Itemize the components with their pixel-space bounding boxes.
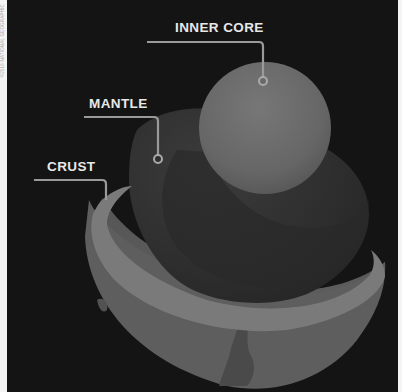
credit-text: ©2016 NATIONAL GEOGRAPHIC [0,4,5,114]
label-mantle: MANTLE [89,96,148,111]
mantle-marker [154,155,162,163]
label-crust: CRUST [47,159,96,174]
inner-core-marker [259,77,267,85]
earth-layers-diagram: INNER CORE MANTLE CRUST [7,0,398,392]
credit-watermark: ©2016 NATIONAL GEOGRAPHIC [0,4,7,114]
earth-layers-illustration [7,0,398,392]
label-inner-core: INNER CORE [175,20,264,35]
